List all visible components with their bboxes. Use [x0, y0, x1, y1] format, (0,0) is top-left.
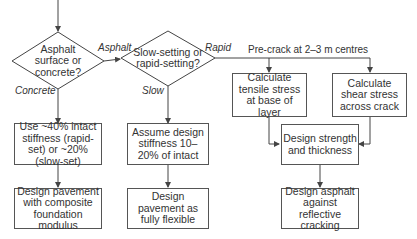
label-asphalt: Asphalt: [98, 42, 131, 53]
decision-slow-or-rapid: Slow-setting or rapid-setting?: [130, 41, 206, 75]
label-rapid: Rapid: [205, 42, 231, 53]
note-pre-crack: Pre-crack at 2–3 m centres: [248, 44, 368, 55]
box-intact-stiffness: Use ~40% intact stiffness (rapid-set) or…: [14, 123, 102, 165]
box-calc-shear-stress: Calculate shear stress across crack: [332, 73, 407, 117]
box-fully-flexible: Design pavement as fully flexible: [127, 188, 209, 229]
box-calc-tensile-stress: Calculate tensile stress at base of laye…: [232, 73, 307, 117]
box-design-strength-thickness: Design strength and thickness: [281, 124, 359, 165]
box-assume-design-stiffness: Assume design stiffness 10–20% of intact: [127, 123, 209, 165]
box-composite-foundation: Design pavement with composite foundatio…: [14, 188, 102, 229]
label-slow: Slow: [142, 85, 164, 96]
label-concrete: Concrete: [15, 85, 56, 96]
decision-asphalt-or-concrete: Asphalt surface or concrete?: [24, 44, 92, 78]
box-design-asphalt-reflective: Design asphalt against reflective cracki…: [281, 188, 359, 229]
